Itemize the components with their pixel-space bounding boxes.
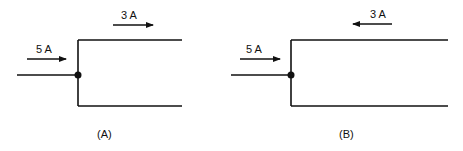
junction-node [288,72,295,79]
panel-caption: (B) [339,128,354,140]
branch-current-label: 3 A [370,8,387,20]
circuit-diagram: 5 A 3 A (A) 5 A 3 A (B) [0,0,463,151]
junction-node [75,72,82,79]
panel-a: 5 A 3 A (A) [17,9,182,140]
panel-b: 5 A 3 A (B) [231,8,448,140]
input-current-label: 5 A [36,43,53,55]
panel-caption: (A) [97,128,112,140]
branch-current-label: 3 A [121,9,138,21]
input-current-label: 5 A [246,43,263,55]
